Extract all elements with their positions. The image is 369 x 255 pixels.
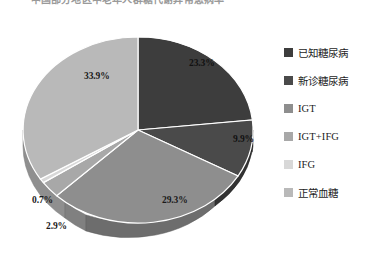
pie-slice-known-diabetes [138, 37, 252, 130]
page-title: 中国部分地区中老年人群糖代谢异常患病率 [0, 0, 255, 6]
legend-item-igt[interactable]: IGT [284, 94, 369, 122]
pie-label-igt: 29.3% [162, 195, 188, 205]
legend-swatch-icon [284, 132, 293, 141]
legend-label: 已知糖尿病 [298, 45, 349, 60]
legend-label: IFG [298, 159, 315, 170]
legend-item-igt-ifg[interactable]: IGT+IFG [284, 122, 369, 150]
legend-label: IGT+IFG [298, 131, 339, 142]
chart-legend: 已知糖尿病 新诊糖尿病 IGT IGT+IFG IFG 正常血糖 [284, 38, 369, 206]
legend-swatch-icon [284, 48, 293, 57]
pie-label-new-diabetes: 9.9% [233, 134, 254, 144]
pie-label-known-diabetes: 23.3% [189, 58, 215, 68]
pie-slices [23, 37, 253, 223]
legend-swatch-icon [284, 188, 293, 197]
pie-chart: 23.3% 9.9% 29.3% 2.9% 0.7% 33.9% [18, 12, 258, 250]
legend-item-ifg[interactable]: IFG [284, 150, 369, 178]
legend-label: IGT [298, 103, 316, 114]
pie-label-igt-ifg: 2.9% [46, 221, 67, 231]
legend-label: 新诊糖尿病 [298, 73, 349, 88]
legend-swatch-icon [284, 104, 293, 113]
legend-item-new-diabetes[interactable]: 新诊糖尿病 [284, 66, 369, 94]
pie-chart-svg [18, 12, 258, 250]
legend-swatch-icon [284, 160, 293, 169]
legend-item-normal-glucose[interactable]: 正常血糖 [284, 178, 369, 206]
pie-label-normal-glucose: 33.9% [84, 71, 110, 81]
chart-page: 中国部分地区中老年人群糖代谢异常患病率 [0, 0, 369, 255]
pie-label-ifg: 0.7% [32, 195, 53, 205]
legend-label: 正常血糖 [298, 185, 338, 200]
legend-item-known-diabetes[interactable]: 已知糖尿病 [284, 38, 369, 66]
legend-swatch-icon [284, 76, 293, 85]
